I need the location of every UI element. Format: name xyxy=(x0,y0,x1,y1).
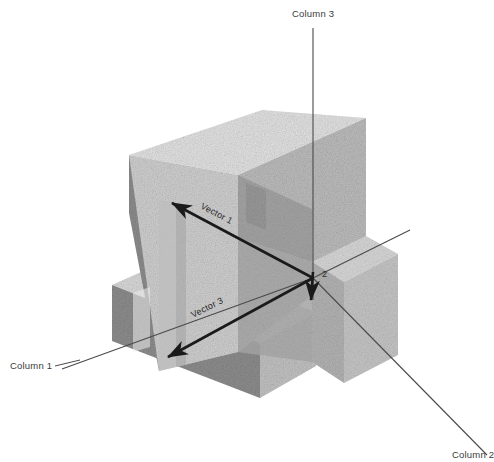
axis-label-column-3: Column 3 xyxy=(292,8,334,19)
groove-group xyxy=(159,200,186,371)
groove-left xyxy=(159,200,176,371)
vector-label-2: 2 xyxy=(322,269,327,279)
axis-label-column-1: Column 1 xyxy=(10,360,52,371)
three-d-column-diagram: Column 3 Column 1 Column 2 Vector 1 2 Ve… xyxy=(0,0,494,462)
groove-shadow xyxy=(176,203,186,367)
right-block-left-face xyxy=(312,262,344,383)
axis-label-column-2: Column 2 xyxy=(452,449,494,460)
figure-canvas: Column 3 Column 1 Column 2 Vector 1 2 Ve… xyxy=(0,0,494,462)
block-group xyxy=(112,110,398,398)
right-block xyxy=(312,236,398,383)
leader-line-column-1 xyxy=(55,360,80,366)
shadow-notch xyxy=(246,183,266,230)
